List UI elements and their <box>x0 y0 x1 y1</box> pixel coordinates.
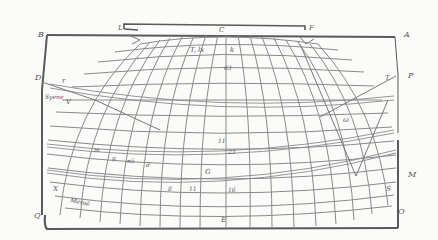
label-S: S <box>386 185 391 193</box>
label-syene: Syene <box>45 93 64 101</box>
label-23: 23 <box>227 148 236 155</box>
label-11: 11 <box>189 185 197 192</box>
label-16: 16 <box>228 186 236 193</box>
label-m: m <box>94 146 100 153</box>
label-k: k <box>230 46 234 54</box>
label-63: 63 <box>224 64 232 71</box>
label-Q: Q <box>34 211 41 220</box>
label-G: G <box>205 168 211 176</box>
label-C: C <box>219 26 225 34</box>
label-D: D <box>34 73 42 82</box>
label-11-upper: 11 <box>218 137 226 144</box>
label-8: 8 <box>168 185 172 192</box>
label-top-inner: T, lx <box>190 46 204 54</box>
label-B: B <box>37 30 44 39</box>
label-omega: ω <box>343 116 349 124</box>
label-L: L <box>117 24 123 32</box>
label-d: d <box>146 161 150 168</box>
projection-diagram: B A D P M Q O E C L F T, lx k r V Syene … <box>0 0 438 240</box>
label-E: E <box>220 216 226 224</box>
label-A: A <box>403 30 410 39</box>
label-P: P <box>407 71 414 80</box>
label-M: M <box>407 170 417 179</box>
label-n5: n5 <box>127 157 135 164</box>
label-X: X <box>52 185 59 193</box>
label-g: g <box>112 154 116 162</box>
label-O: O <box>398 207 405 216</box>
